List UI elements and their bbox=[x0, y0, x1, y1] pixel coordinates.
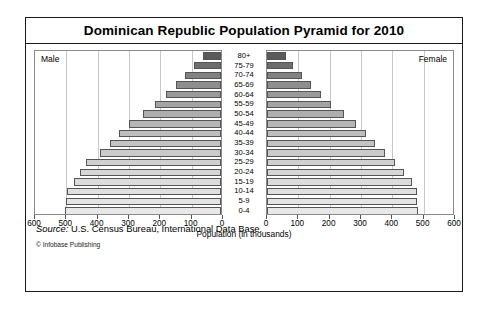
age-label-20-24: 20-24 bbox=[234, 167, 253, 177]
age-label-65-69: 65-69 bbox=[234, 80, 253, 90]
source-text: U.S. Census Bureau, International Data B… bbox=[68, 223, 262, 234]
bar-male-75-79 bbox=[194, 62, 221, 69]
bar-male-5-9 bbox=[66, 198, 221, 205]
bar-female-65-69 bbox=[267, 81, 311, 88]
bar-male-30-34 bbox=[100, 149, 221, 156]
bar-male-55-59 bbox=[155, 101, 221, 108]
bar-female-5-9 bbox=[267, 198, 417, 205]
chart-frame: Dominican Republic Population Pyramid fo… bbox=[25, 17, 463, 292]
bar-male-20-24 bbox=[80, 169, 221, 176]
bar-female-10-14 bbox=[267, 188, 417, 195]
bar-female-25-29 bbox=[267, 159, 395, 166]
bar-female-20-24 bbox=[267, 169, 404, 176]
age-label-55-59: 55-59 bbox=[234, 99, 253, 109]
age-label-70-74: 70-74 bbox=[234, 70, 253, 80]
bar-male-70-74 bbox=[185, 72, 221, 79]
source-word: Source: bbox=[36, 223, 68, 234]
age-label-45-49: 45-49 bbox=[234, 119, 253, 129]
age-label-40-44: 40-44 bbox=[234, 128, 253, 138]
page-title: Dominican Republic Population Pyramid fo… bbox=[84, 23, 404, 38]
bar-female-15-19 bbox=[267, 178, 412, 185]
bar-male-10-14 bbox=[67, 188, 221, 195]
bar-male-15-19 bbox=[74, 178, 221, 185]
bar-female-80+ bbox=[267, 52, 286, 59]
female-bar-group bbox=[267, 51, 453, 214]
copyright-note: © Infobase Publishing bbox=[36, 241, 452, 248]
female-panel: Female bbox=[266, 50, 454, 215]
bar-male-60-64 bbox=[166, 91, 221, 98]
age-label-35-39: 35-39 bbox=[234, 138, 253, 148]
age-label-80+: 80+ bbox=[238, 51, 251, 61]
age-label-60-64: 60-64 bbox=[234, 90, 253, 100]
bar-male-50-54 bbox=[143, 110, 221, 117]
bar-male-65-69 bbox=[176, 81, 221, 88]
age-label-30-34: 30-34 bbox=[234, 148, 253, 158]
bar-female-40-44 bbox=[267, 130, 366, 137]
age-group-axis: 80+75-7970-7465-6960-6455-5950-5445-4940… bbox=[222, 50, 266, 215]
male-panel: Male bbox=[34, 50, 222, 215]
bar-male-0-4 bbox=[65, 207, 221, 214]
age-label-0-4: 0-4 bbox=[239, 206, 250, 216]
bar-female-30-34 bbox=[267, 149, 385, 156]
bar-female-60-64 bbox=[267, 91, 321, 98]
bar-female-50-54 bbox=[267, 110, 344, 117]
title-bar: Dominican Republic Population Pyramid fo… bbox=[26, 18, 462, 44]
age-label-5-9: 5-9 bbox=[239, 196, 250, 206]
age-label-50-54: 50-54 bbox=[234, 109, 253, 119]
bar-female-70-74 bbox=[267, 72, 302, 79]
age-label-75-79: 75-79 bbox=[234, 61, 253, 71]
bar-male-45-49 bbox=[129, 120, 221, 127]
bar-male-80+ bbox=[203, 52, 221, 59]
male-bar-group bbox=[35, 51, 221, 214]
age-label-15-19: 15-19 bbox=[234, 177, 253, 187]
bar-female-55-59 bbox=[267, 101, 331, 108]
pyramid-plot-area: Male 80+75-7970-7465-6960-6455-5950-5445… bbox=[34, 50, 454, 215]
bar-female-0-4 bbox=[267, 207, 418, 214]
bar-female-45-49 bbox=[267, 120, 356, 127]
age-label-10-14: 10-14 bbox=[234, 186, 253, 196]
bar-female-35-39 bbox=[267, 140, 375, 147]
bar-female-75-79 bbox=[267, 62, 293, 69]
bar-male-40-44 bbox=[119, 130, 221, 137]
age-label-25-29: 25-29 bbox=[234, 157, 253, 167]
bar-male-25-29 bbox=[86, 159, 221, 166]
bar-male-35-39 bbox=[110, 140, 221, 147]
footer: Source: U.S. Census Bureau, Internationa… bbox=[36, 223, 452, 248]
source-note: Source: U.S. Census Bureau, Internationa… bbox=[36, 223, 452, 234]
